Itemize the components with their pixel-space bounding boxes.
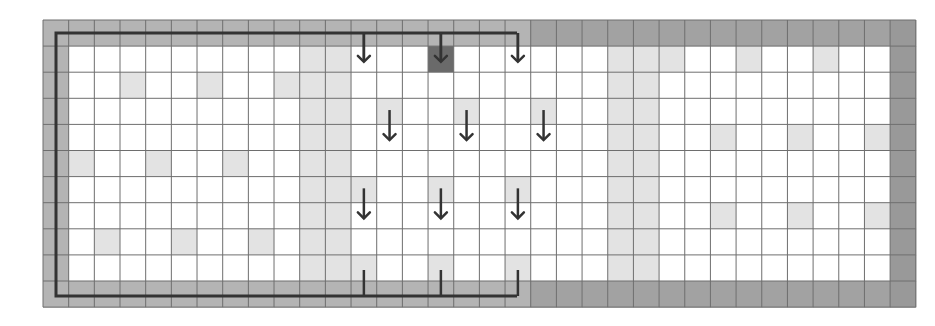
grid-cell (505, 72, 531, 99)
grid-cell (120, 124, 146, 151)
border-cell (890, 98, 916, 125)
grid-cell (864, 72, 890, 99)
border-cell (890, 281, 916, 308)
grid-cell (146, 46, 172, 73)
grid-cell (69, 203, 95, 230)
grid-cell (685, 255, 711, 282)
shaded-cell (274, 72, 300, 99)
border-cell (839, 20, 865, 47)
grid-cell (710, 98, 736, 125)
border-cell (762, 281, 788, 308)
grid-cell (531, 72, 557, 99)
grid-cell (839, 151, 865, 178)
grid-cell (582, 203, 608, 230)
grid-cell (274, 98, 300, 125)
grid-cell (813, 229, 839, 256)
grid-cell (197, 177, 223, 204)
border-cell (813, 281, 839, 308)
shaded-cell (325, 255, 351, 282)
shaded-cell (633, 124, 659, 151)
grid-cell (685, 229, 711, 256)
grid-cell (839, 72, 865, 99)
grid-cell (94, 46, 120, 73)
grid-cell (479, 46, 505, 73)
grid-cell (428, 151, 454, 178)
grid-canvas (0, 0, 935, 326)
grid-cell (685, 72, 711, 99)
shaded-cell (608, 72, 634, 99)
grid-cell (377, 203, 403, 230)
border-cell (890, 46, 916, 73)
border-cell (890, 72, 916, 99)
grid-cell (94, 255, 120, 282)
grid-cell (582, 46, 608, 73)
shaded-cell (633, 255, 659, 282)
grid-cell (556, 229, 582, 256)
shaded-cell (633, 177, 659, 204)
border-cell (762, 20, 788, 47)
grid-cell (736, 255, 762, 282)
grid-cell (402, 98, 428, 125)
grid-cell (454, 203, 480, 230)
shaded-cell (633, 98, 659, 125)
shaded-cell (325, 98, 351, 125)
border-cell (710, 20, 736, 47)
shaded-cell (300, 255, 326, 282)
grid-cell (120, 203, 146, 230)
grid-cell (556, 72, 582, 99)
grid-cell (762, 229, 788, 256)
grid-cell (556, 177, 582, 204)
border-cell (223, 281, 249, 308)
grid-cell (556, 151, 582, 178)
shaded-cell (608, 177, 634, 204)
grid-cell (171, 151, 197, 178)
shaded-cell (633, 203, 659, 230)
shaded-cell (197, 72, 223, 99)
grid-cell (531, 177, 557, 204)
shaded-cell (633, 46, 659, 73)
grid-cell (685, 98, 711, 125)
border-cell (890, 203, 916, 230)
shaded-cell (736, 46, 762, 73)
grid-cell (582, 72, 608, 99)
grid-cell (223, 124, 249, 151)
grid-cell (736, 203, 762, 230)
grid-cell (582, 124, 608, 151)
border-cell (787, 20, 813, 47)
border-cell (582, 20, 608, 47)
border-cell (659, 20, 685, 47)
border-cell (890, 20, 916, 47)
shaded-cell (325, 46, 351, 73)
grid-cell (556, 46, 582, 73)
grid-cell (659, 124, 685, 151)
grid-cell (454, 151, 480, 178)
grid-cell (582, 255, 608, 282)
grid-cell (428, 72, 454, 99)
grid-cell (248, 98, 274, 125)
grid-cell (505, 124, 531, 151)
grid-cell (197, 255, 223, 282)
border-cell (736, 20, 762, 47)
border-cell (890, 124, 916, 151)
grid-cell (146, 177, 172, 204)
grid-cell (813, 177, 839, 204)
grid-cell (223, 98, 249, 125)
grid-cell (787, 177, 813, 204)
grid-cell (710, 229, 736, 256)
border-cell (608, 20, 634, 47)
grid-cell (505, 151, 531, 178)
shaded-cell (813, 46, 839, 73)
grid-cell (659, 151, 685, 178)
grid-cell (377, 255, 403, 282)
grid-cell (274, 203, 300, 230)
grid-cell (864, 46, 890, 73)
grid-cell (710, 151, 736, 178)
shaded-cell (325, 203, 351, 230)
grid-cell (351, 229, 377, 256)
border-cell (659, 281, 685, 308)
grid-cell (402, 72, 428, 99)
grid-cell (146, 229, 172, 256)
grid-cell (762, 98, 788, 125)
grid-cell (402, 177, 428, 204)
grid-cell (787, 229, 813, 256)
